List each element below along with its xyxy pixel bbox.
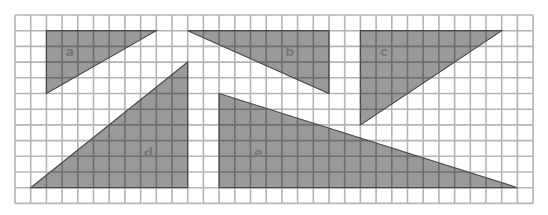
label-a: a — [66, 44, 75, 59]
label-d: d — [144, 145, 153, 160]
label-e: e — [254, 145, 263, 160]
label-b: b — [285, 44, 294, 59]
label-c: c — [380, 44, 388, 59]
triangle-grid-diagram: a b c d e — [0, 0, 548, 215]
